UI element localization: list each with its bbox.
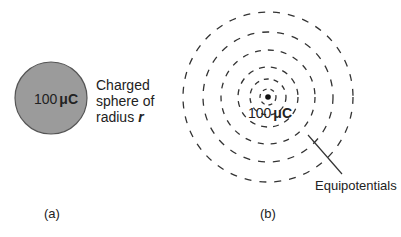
sphere-description-line-2: sphere of (96, 93, 154, 109)
diagram-canvas: 100μC Charged sphere of radiusr (a) 100μ… (0, 0, 401, 237)
sphere-description-line-1: Charged (96, 77, 150, 93)
point-charge-value: 100 (248, 105, 272, 121)
svg-text:100μC: 100μC (248, 105, 292, 121)
svg-text:Charged sphere of: Charged sphere of radiusr (96, 77, 158, 125)
sphere-charge-value: 100 (34, 91, 58, 107)
svg-text:100μC: 100μC (34, 91, 78, 107)
point-charge-unit: μC (273, 105, 292, 121)
caption-b: (b) (260, 206, 276, 221)
point-charge-dot (265, 94, 271, 100)
sphere-charge-unit: μC (59, 91, 78, 107)
equipotentials-label: Equipotentials (315, 178, 397, 193)
panel-a: 100μC Charged sphere of radiusr (a) (15, 62, 158, 221)
sphere-description-line-3: radius (96, 109, 134, 125)
caption-a: (a) (44, 206, 60, 221)
radius-symbol: r (138, 109, 145, 125)
equipotential-leader-line (308, 135, 342, 174)
